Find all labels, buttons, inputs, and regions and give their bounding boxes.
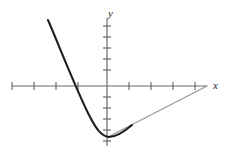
x-axis-label: x xyxy=(213,80,218,91)
parabola-curve xyxy=(48,20,132,137)
y-axis-label: y xyxy=(108,8,113,19)
ray-segment xyxy=(108,86,207,137)
coordinate-plane-svg xyxy=(0,0,227,154)
y-axis-group xyxy=(103,19,111,146)
x-axis-group xyxy=(12,82,207,90)
graph-figure: y x xyxy=(0,0,227,154)
